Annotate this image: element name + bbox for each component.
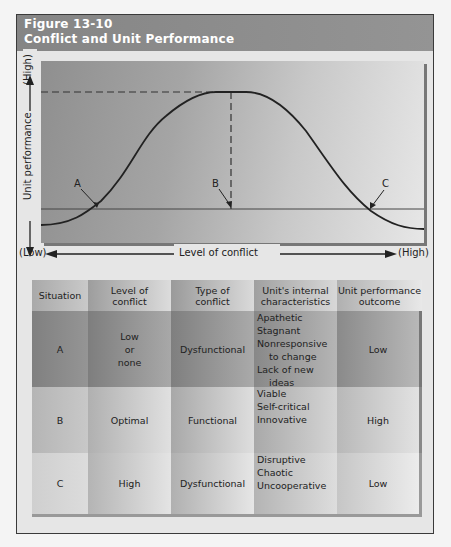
figure-title-bar: Figure 13-10 Conflict and Unit Performan… — [17, 15, 433, 51]
x-axis: (Low) Level of conflict (High) — [17, 244, 433, 264]
point-b-label: B — [212, 178, 219, 189]
row-a-level: Lowornone — [88, 311, 171, 387]
row-c-outcome: Low — [337, 453, 422, 517]
row-c-type: Dysfunctional — [171, 453, 254, 517]
arrow-right-icon — [385, 250, 397, 258]
point-c-label: C — [382, 178, 389, 189]
header-level-of-conflict: Level ofconflict — [88, 280, 171, 311]
performance-curve — [41, 92, 424, 229]
x-axis-low-label: (Low) — [19, 247, 47, 258]
header-situation: Situation — [32, 280, 88, 311]
row-a-type: Dysfunctional — [171, 311, 254, 387]
row-b-type: Functional — [171, 387, 254, 453]
y-axis-label: Unit performance — [22, 112, 33, 200]
chart-panel: A B C — [41, 61, 424, 243]
row-b-outcome: High — [337, 387, 422, 453]
point-c-arrowhead — [370, 202, 376, 209]
header-performance-outcome: Unit performanceoutcome — [337, 280, 422, 311]
point-b-arrowhead — [226, 201, 232, 208]
row-b-characteristics: Viable Self-critical Innovative — [254, 387, 337, 453]
row-a-characteristics: Apathetic Stagnant Nonresponsive to chan… — [254, 311, 337, 387]
row-c-characteristics: Disruptive Chaotic Uncooperative — [254, 453, 337, 517]
row-a-situation: A — [32, 311, 88, 387]
performance-curve-svg: A B C — [41, 61, 424, 243]
x-axis-high-label: (High) — [398, 247, 429, 258]
figure-title: Conflict and Unit Performance — [24, 32, 234, 46]
point-c-arrow-line — [372, 190, 384, 206]
row-a-outcome: Low — [337, 311, 422, 387]
row-c-situation: C — [32, 453, 88, 517]
header-internal-characteristics: Unit's internalcharacteristics — [254, 280, 337, 311]
row-b-level: Optimal — [88, 387, 171, 453]
figure-frame: Figure 13-10 Conflict and Unit Performan… — [16, 14, 434, 534]
x-axis-label: Level of conflict — [179, 247, 258, 258]
y-axis-high-label: (High) — [22, 54, 33, 85]
figure-number: Figure 13-10 — [24, 17, 112, 31]
row-b-situation: B — [32, 387, 88, 453]
point-a-label: A — [74, 178, 81, 189]
row-c-level: High — [88, 453, 171, 517]
header-type-of-conflict: Type ofconflict — [171, 280, 254, 311]
